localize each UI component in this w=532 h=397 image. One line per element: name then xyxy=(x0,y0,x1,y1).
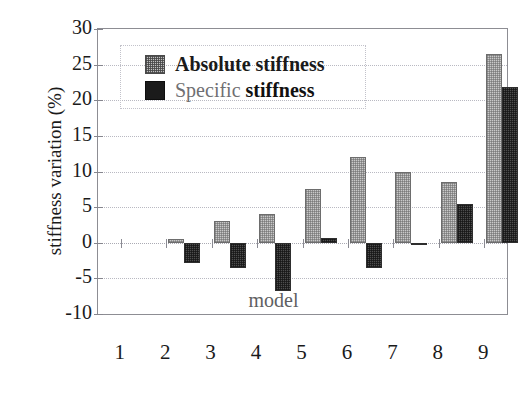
x-tick-mark xyxy=(439,239,440,248)
x-tick-mark xyxy=(303,239,304,248)
solid-black-swatch-icon xyxy=(145,81,165,100)
y-tick-label: 0 xyxy=(46,231,92,251)
x-tick-mark xyxy=(348,239,349,248)
bar-absolute-model-4 xyxy=(259,214,275,243)
y-tick-mark xyxy=(94,136,103,137)
y-tick-label: 25 xyxy=(46,53,92,73)
bar-absolute-model-6 xyxy=(350,157,366,243)
x-axis-tick-labels: 123456789 xyxy=(97,340,508,370)
y-axis-tick-labels: 302520151050-5-10 xyxy=(46,0,92,397)
y-tick-label: 30 xyxy=(46,17,92,37)
x-tick-label-4: 4 xyxy=(236,340,276,364)
bar-absolute-model-3 xyxy=(214,221,230,242)
y-tick-label: -10 xyxy=(46,302,92,322)
x-tick-label-5: 5 xyxy=(282,340,322,364)
chart-legend: Absolute stiffness Specific stiffness xyxy=(120,45,366,109)
bar-specific-model-2 xyxy=(184,243,200,263)
x-tick-label-9: 9 xyxy=(463,340,503,364)
x-tick-mark xyxy=(257,239,258,248)
bar-absolute-model-9 xyxy=(486,54,502,243)
y-tick-label: 10 xyxy=(46,160,92,180)
x-tick-mark xyxy=(121,239,122,248)
y-tick-label: -5 xyxy=(46,266,92,286)
x-tick-mark xyxy=(212,239,213,248)
y-tick-mark xyxy=(94,100,103,101)
bar-specific-model-8 xyxy=(457,204,473,243)
x-tick-label-2: 2 xyxy=(145,340,185,364)
x-axis-title: model xyxy=(98,289,507,312)
bar-chart-figure: stiffness variation (%) 302520151050-5-1… xyxy=(0,0,532,397)
legend-label-specific-stiffness: Specific stiffness xyxy=(175,80,314,101)
legend-item-absolute-stiffness: Absolute stiffness xyxy=(145,51,365,77)
x-tick-label-8: 8 xyxy=(418,340,458,364)
bar-specific-model-3 xyxy=(230,243,246,269)
y-tick-mark xyxy=(94,314,103,315)
bar-specific-model-4 xyxy=(275,243,291,291)
y-tick-mark xyxy=(94,243,103,244)
y-tick-mark xyxy=(94,207,103,208)
plot-area: Absolute stiffness Specific stiffness mo… xyxy=(97,28,508,315)
y-tick-label: 5 xyxy=(46,195,92,215)
bar-absolute-model-2 xyxy=(168,239,184,243)
legend-item-specific-stiffness: Specific stiffness xyxy=(145,77,365,103)
legend-label-absolute-stiffness: Absolute stiffness xyxy=(175,54,324,75)
y-tick-label: 15 xyxy=(46,124,92,144)
bar-specific-model-7 xyxy=(411,243,427,245)
gridline xyxy=(98,172,507,173)
x-tick-label-6: 6 xyxy=(327,340,367,364)
y-tick-mark xyxy=(94,65,103,66)
bar-absolute-model-7 xyxy=(395,172,411,243)
bar-specific-model-6 xyxy=(366,243,382,268)
checkered-gray-swatch-icon xyxy=(145,55,165,74)
y-tick-mark xyxy=(94,29,103,30)
y-tick-label: 20 xyxy=(46,88,92,108)
bar-specific-model-5 xyxy=(321,238,337,243)
x-tick-mark xyxy=(393,239,394,248)
y-tick-mark xyxy=(94,278,103,279)
x-tick-label-7: 7 xyxy=(372,340,412,364)
y-tick-mark xyxy=(94,172,103,173)
bar-specific-model-9 xyxy=(502,87,518,242)
gridline xyxy=(98,136,507,137)
x-tick-mark xyxy=(484,239,485,248)
x-tick-label-1: 1 xyxy=(100,340,140,364)
x-tick-label-3: 3 xyxy=(191,340,231,364)
bar-absolute-model-5 xyxy=(305,189,321,242)
bar-absolute-model-8 xyxy=(441,182,457,243)
gridline xyxy=(98,278,507,279)
x-tick-mark xyxy=(166,239,167,248)
